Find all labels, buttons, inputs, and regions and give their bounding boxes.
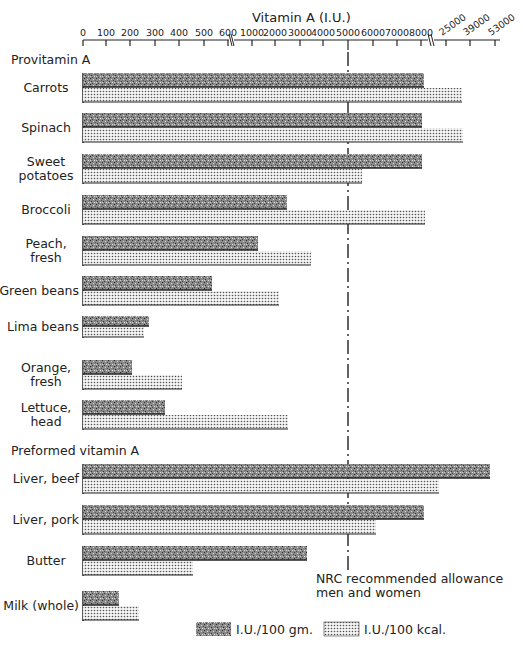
bar-row: Peach,fresh bbox=[25, 236, 311, 266]
bar-row: Lettuce,head bbox=[21, 400, 288, 430]
bar-per-100kcal bbox=[83, 210, 425, 224]
bar-per-100gm bbox=[83, 546, 307, 560]
bar-row: Broccoli bbox=[21, 195, 425, 225]
tick-label: 600 bbox=[219, 27, 237, 38]
bar-row: Liver, beef bbox=[13, 464, 490, 494]
legend: I.U./100 gm. I.U./100 kcal. bbox=[196, 622, 446, 637]
bar-per-100gm bbox=[83, 316, 149, 326]
bar-per-100gm bbox=[83, 154, 422, 168]
bar-row: Butter bbox=[26, 546, 307, 576]
bar-per-100kcal bbox=[83, 561, 193, 575]
tick-label: 7000 bbox=[385, 27, 409, 38]
bar-per-100gm bbox=[83, 464, 490, 478]
bar-per-100gm bbox=[83, 360, 132, 374]
bar-per-100kcal bbox=[83, 169, 362, 183]
bar-rows: CarrotsSpinachSweetpotatoesBroccoliPeach… bbox=[0, 73, 490, 621]
tick-label: 39000 bbox=[461, 11, 492, 37]
row-label: potatoes bbox=[19, 168, 74, 183]
bar-per-100kcal bbox=[83, 251, 311, 265]
bar-row: Spinach bbox=[21, 113, 463, 143]
row-label: Sweet bbox=[27, 154, 66, 169]
tick-label: 2000 bbox=[263, 27, 287, 38]
row-label: head bbox=[30, 414, 61, 429]
bar-per-100gm bbox=[83, 505, 424, 519]
bar-per-100kcal bbox=[83, 479, 439, 493]
tick-label: 0 bbox=[80, 27, 86, 38]
row-label: Green beans bbox=[0, 283, 79, 298]
row-label: Lima beans bbox=[7, 319, 79, 334]
legend-swatch-kcal bbox=[324, 622, 359, 636]
bar-row: Milk (whole) bbox=[3, 591, 139, 621]
row-label: Peach, bbox=[25, 236, 66, 251]
bar-per-100kcal bbox=[83, 606, 139, 620]
row-label: Spinach bbox=[21, 120, 71, 135]
bar-per-100gm bbox=[83, 276, 212, 290]
bar-per-100kcal bbox=[83, 375, 182, 389]
row-label: Liver, beef bbox=[13, 471, 80, 486]
group-label-preformed: Preformed vitamin A bbox=[11, 443, 140, 458]
nrc-label-line1: NRC recommended allowance bbox=[316, 571, 504, 586]
bar-row: Sweetpotatoes bbox=[19, 154, 422, 184]
vitamin-a-bar-chart: Vitamin A (I.U.) 01002003004005006001000… bbox=[0, 0, 523, 649]
bar-row: Carrots bbox=[23, 73, 462, 103]
nrc-label-line2: men and women bbox=[316, 585, 421, 600]
bar-per-100kcal bbox=[83, 88, 462, 102]
row-label: Carrots bbox=[23, 80, 68, 95]
row-label: fresh bbox=[30, 250, 61, 265]
bar-per-100kcal bbox=[83, 520, 376, 534]
bar-per-100kcal bbox=[83, 415, 288, 429]
row-label: fresh bbox=[30, 374, 61, 389]
bar-row: Lima beans bbox=[7, 316, 149, 338]
bar-row: Green beans bbox=[0, 276, 279, 306]
tick-label: 4000 bbox=[311, 27, 335, 38]
bar-per-100gm bbox=[83, 113, 422, 127]
row-label: Liver, pork bbox=[12, 512, 79, 527]
tick-label: 5000 bbox=[336, 27, 360, 38]
axis-title: Vitamin A (I.U.) bbox=[252, 10, 351, 25]
bar-row: Orange,fresh bbox=[21, 360, 182, 390]
tick-label: 200 bbox=[121, 27, 139, 38]
tick-label: 300 bbox=[146, 27, 164, 38]
tick-label: 53000 bbox=[486, 11, 517, 37]
group-label-provitamin: Provitamin A bbox=[11, 52, 91, 67]
legend-label-gm: I.U./100 gm. bbox=[236, 622, 313, 637]
bar-per-100kcal bbox=[83, 291, 279, 305]
row-label: Milk (whole) bbox=[3, 598, 79, 613]
bar-per-100gm bbox=[83, 73, 424, 87]
tick-label: 1000 bbox=[240, 27, 264, 38]
bar-per-100kcal bbox=[83, 327, 144, 337]
bar-per-100gm bbox=[83, 195, 287, 209]
tick-label: 400 bbox=[170, 27, 188, 38]
legend-swatch-gm bbox=[196, 622, 231, 636]
row-label: Broccoli bbox=[21, 202, 70, 217]
bar-per-100kcal bbox=[83, 128, 463, 142]
tick-label: 500 bbox=[195, 27, 213, 38]
row-label: Orange, bbox=[21, 360, 71, 375]
bar-per-100gm bbox=[83, 236, 258, 250]
tick-label: 6000 bbox=[361, 27, 385, 38]
row-label: Butter bbox=[26, 553, 66, 568]
tick-label: 100 bbox=[97, 27, 115, 38]
tick-label: 3000 bbox=[288, 27, 312, 38]
bar-per-100gm bbox=[83, 400, 165, 414]
legend-label-kcal: I.U./100 kcal. bbox=[364, 622, 446, 637]
tick-label: 8000 bbox=[409, 27, 433, 38]
bar-per-100gm bbox=[83, 591, 119, 605]
bar-row: Liver, pork bbox=[12, 505, 424, 535]
row-label: Lettuce, bbox=[21, 400, 72, 415]
